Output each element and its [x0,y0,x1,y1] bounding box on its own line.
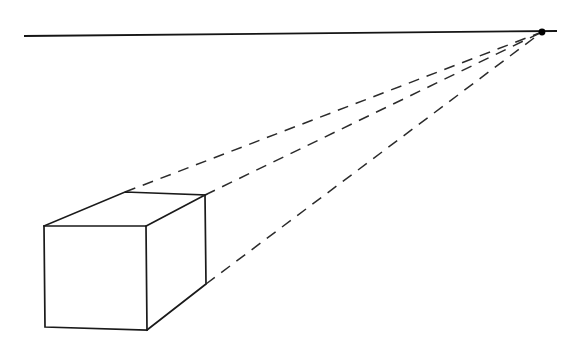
perspective-svg [0,0,580,347]
perspective-diagram-canvas [0,0,580,347]
box-front-face-fill [44,226,147,330]
vanishing-point-dot [539,29,546,36]
